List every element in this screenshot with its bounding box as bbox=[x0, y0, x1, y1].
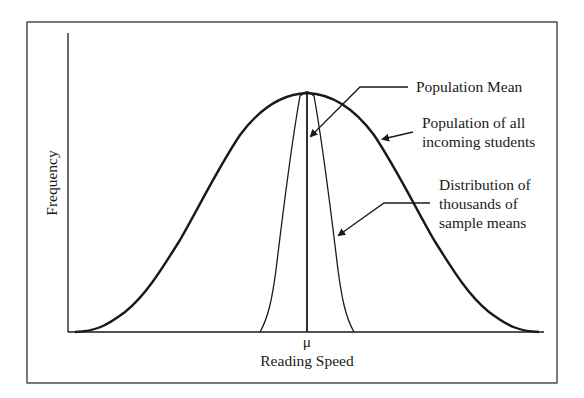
sampling-label-line2: thousands of bbox=[439, 195, 519, 212]
sampling-label-line3: sample means bbox=[439, 214, 526, 231]
sampling-distribution-diagram: Population Mean Population of all incomi… bbox=[0, 0, 584, 398]
y-axis-label: Frequency bbox=[43, 150, 60, 216]
population-leader bbox=[383, 132, 413, 139]
x-axis-label: Reading Speed bbox=[260, 352, 354, 369]
population-mean-label: Population Mean bbox=[416, 78, 523, 95]
population-mean-leader bbox=[311, 87, 408, 136]
population-label-line1: Population of all bbox=[422, 114, 525, 131]
sampling-label-line1: Distribution of bbox=[439, 176, 532, 193]
mean-symbol: μ bbox=[303, 333, 311, 350]
population-label-line2: incoming students bbox=[422, 133, 535, 150]
